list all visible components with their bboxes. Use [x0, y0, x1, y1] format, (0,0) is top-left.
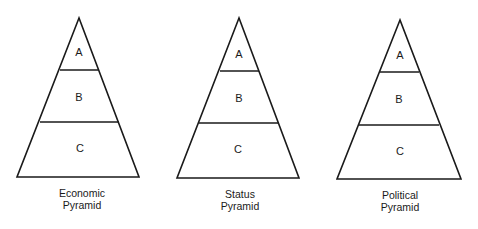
- economic-tier-c: C: [76, 142, 84, 154]
- status-tier-c: C: [234, 143, 242, 155]
- economic-tier-a: A: [75, 46, 83, 58]
- economic-caption-line2: Pyramid: [63, 199, 102, 211]
- political-tier-a: A: [396, 49, 404, 61]
- economic-tier-b: B: [75, 91, 82, 103]
- status-pyramid: A B C Status Pyramid: [177, 18, 299, 212]
- political-caption-line1: Political: [382, 189, 418, 201]
- economic-pyramid: A B C Economic Pyramid: [17, 18, 139, 211]
- political-pyramid: A B C Political Pyramid: [337, 20, 461, 213]
- status-tier-a: A: [235, 48, 243, 60]
- status-caption-line1: Status: [225, 188, 255, 200]
- political-caption-line2: Pyramid: [381, 201, 420, 213]
- status-caption-line2: Pyramid: [221, 200, 260, 212]
- political-tier-b: B: [395, 93, 402, 105]
- political-tier-c: C: [396, 145, 404, 157]
- economic-caption-line1: Economic: [59, 187, 105, 199]
- status-tier-b: B: [235, 92, 242, 104]
- pyramids-diagram: A B C Economic Pyramid A B C Status Pyra…: [0, 0, 478, 229]
